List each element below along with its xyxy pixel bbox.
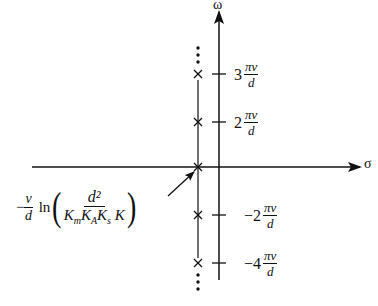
formula-inner-fraction: d² KmKAKs K — [64, 189, 125, 226]
formula-inner-denominator: KmKAKs K — [64, 207, 125, 226]
tick-label-3: 3 πvd — [234, 60, 258, 89]
tick-label-neg2: −2 πvd — [244, 201, 277, 230]
continuation-dots-bottom — [196, 273, 199, 290]
formula-ln: ln — [39, 199, 51, 216]
formula-sign: − — [16, 199, 24, 216]
imag-axis-label: ω — [213, 0, 222, 13]
tick-label-neg4: −4 πvd — [244, 249, 277, 278]
annotation-arrow — [168, 172, 194, 196]
continuation-dots-top — [196, 46, 199, 63]
formula-inner-numerator: d² — [84, 189, 105, 207]
real-axis-label: σ — [364, 156, 372, 172]
tick-label-2: 2 πvd — [234, 108, 258, 137]
pole-x-icon — [194, 259, 202, 267]
s-plane-diagram — [0, 0, 378, 306]
pole-x-icon — [194, 70, 202, 78]
formula-prefix-fraction: vd — [24, 192, 32, 223]
pole-location-formula: − vd ln ( d² KmKAKs K ) — [16, 187, 138, 227]
